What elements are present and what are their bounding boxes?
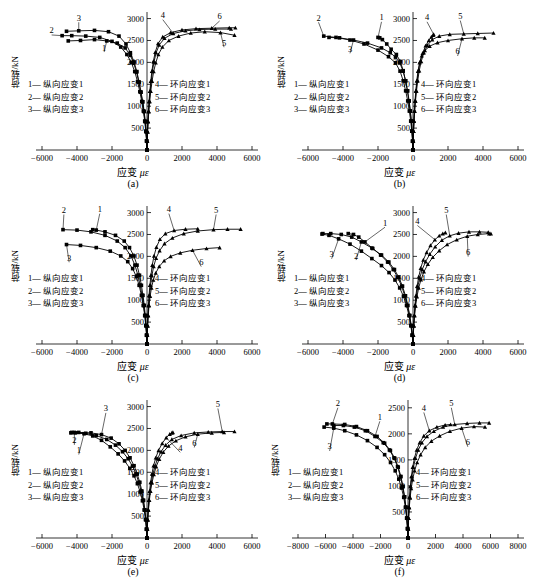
data-point-marker [84, 431, 88, 435]
callout-leader-line [451, 408, 454, 425]
legend-key: 1— [294, 79, 309, 89]
legend-key: 2— [28, 286, 43, 296]
panel-caption: (d) [266, 372, 533, 383]
legend-label: 纵向应变3 [43, 492, 83, 502]
y-axis-tick-label: 3000 [127, 402, 144, 412]
y-axis-tick-label: 1500 [127, 79, 144, 89]
curve-number-label: 6 [456, 46, 460, 56]
data-point-marker [327, 234, 331, 238]
data-point-marker [402, 496, 406, 500]
callout-leader-line [460, 21, 464, 34]
x-axis-tick-label: 6000 [244, 347, 261, 357]
legend-label: 环向应变1 [170, 79, 210, 89]
x-axis-title-text: 应变 [384, 555, 407, 566]
curve-number-label: 3 [77, 13, 81, 23]
callout-leader-line [96, 214, 100, 230]
x-axis-title: 应变 με [266, 164, 533, 179]
data-point-marker [429, 439, 433, 443]
legend-item: 1— 纵向应变1 [28, 466, 83, 479]
x-axis-title-unit: με [140, 167, 149, 178]
legend-label: 环向应变3 [436, 298, 476, 308]
legend-label: 纵向应变1 [43, 273, 83, 283]
data-point-marker [400, 486, 404, 490]
data-point-marker [141, 100, 145, 104]
legend-item: 4— 环向应变1 [155, 272, 210, 285]
data-point-marker [325, 422, 329, 426]
curve-number-label: 1 [379, 12, 383, 22]
x-axis-tick-label: −8000 [287, 541, 309, 551]
data-point-marker [79, 39, 83, 43]
x-axis-tick-label: 2000 [174, 347, 191, 357]
callout-leader-line [214, 215, 217, 230]
y-axis-tick-label: 500 [131, 317, 144, 327]
y-axis-tick-label: 500 [397, 123, 410, 133]
data-point-marker [105, 438, 109, 442]
data-point-marker [360, 249, 364, 253]
legend-key: 3— [294, 298, 309, 308]
data-point-marker [108, 445, 112, 449]
chart-panel-b: −6000−4000−20000200040006000500100015002… [266, 0, 533, 194]
data-point-marker [109, 436, 113, 440]
chart-panel-d: −6000−4000−20000200040006000500100015002… [266, 194, 533, 388]
data-point-marker [116, 452, 120, 456]
legend-key: 5— [421, 286, 436, 296]
legend-item: 3— 纵向应变3 [294, 297, 349, 310]
curve-number-label: 6 [218, 11, 222, 21]
curve-number-label: 5 [458, 11, 462, 21]
legend-item: 1— 纵向应变1 [28, 78, 83, 91]
data-point-marker [137, 80, 141, 84]
legend-longitudinal: 1— 纵向应变12— 纵向应变23— 纵向应变3 [28, 78, 83, 116]
legend-item: 6— 环向应变3 [421, 297, 476, 310]
legend-key: 4— [155, 273, 170, 283]
data-point-marker [117, 34, 121, 38]
data-point-marker [415, 460, 419, 464]
x-axis-tick-label: 6000 [244, 541, 261, 551]
x-axis-tick-label: 0 [411, 153, 415, 163]
legend-key: 6— [155, 104, 170, 114]
data-point-marker [440, 238, 444, 242]
x-axis-tick-label: −2000 [101, 347, 123, 357]
legend-label: 环向应变2 [170, 480, 210, 490]
y-axis-tick-label: 2500 [388, 403, 405, 413]
data-point-marker [350, 235, 354, 239]
legend-item: 2— 纵向应变2 [294, 285, 349, 298]
x-axis-tick-label: 4000 [475, 153, 492, 163]
data-point-marker [125, 53, 129, 57]
legend-key: 5— [155, 286, 170, 296]
legend-label: 环向应变1 [170, 467, 210, 477]
data-point-marker [394, 61, 398, 65]
legend-label: 环向应变3 [431, 492, 471, 502]
legend-item: 4— 环向应变1 [155, 466, 210, 479]
legend-key: 3— [294, 104, 309, 114]
data-point-marker [389, 461, 393, 465]
data-point-marker [103, 234, 107, 238]
legend-item: 6— 环向应变3 [421, 103, 476, 116]
data-point-marker [135, 70, 139, 74]
data-point-marker [84, 34, 88, 38]
data-point-marker [75, 228, 79, 232]
y-axis-title: 荷载/kN [8, 444, 21, 476]
legend-hoop: 4— 环向应变15— 环向应变26— 环向应变3 [155, 272, 210, 310]
data-point-marker [343, 423, 347, 427]
data-point-marker [380, 264, 384, 268]
data-point-marker [123, 46, 127, 50]
data-point-marker [123, 246, 127, 250]
legend-key: 6— [416, 492, 431, 502]
x-axis-title-unit: με [406, 555, 415, 566]
data-point-marker [119, 45, 123, 49]
curve-number-label: 4 [161, 10, 166, 20]
data-point-marker [380, 253, 384, 257]
data-point-marker [348, 242, 352, 246]
legend-key: 6— [155, 492, 170, 502]
curve-number-label: 2 [72, 435, 76, 445]
curve-number-label: 6 [466, 437, 470, 447]
data-point-marker [389, 449, 393, 453]
x-axis-tick-label: 2000 [427, 541, 444, 551]
data-point-marker [137, 283, 141, 287]
legend-label: 纵向应变1 [43, 79, 83, 89]
curve-number-label: 1 [383, 218, 387, 228]
data-point-marker [70, 431, 74, 435]
legend-label: 环向应变2 [170, 286, 210, 296]
y-axis-tick-label: 2500 [127, 229, 144, 239]
x-axis-tick-label: 6000 [510, 153, 527, 163]
